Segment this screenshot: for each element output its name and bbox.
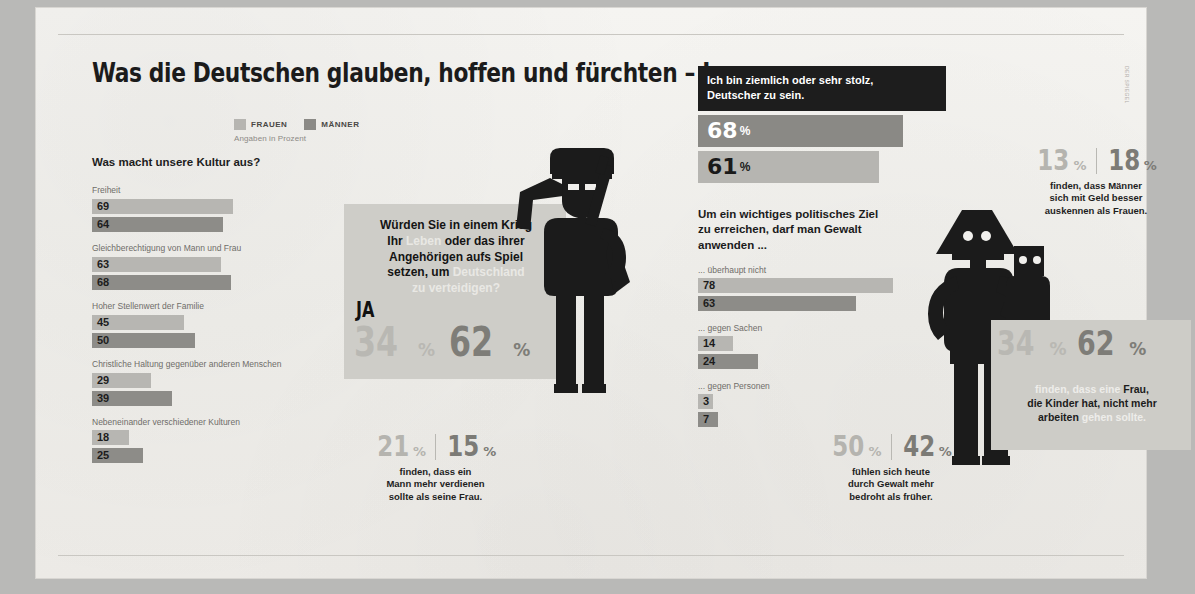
war-q-l4a: setzen, um bbox=[387, 265, 452, 279]
left-question: Was macht unsere Kultur aus? bbox=[92, 156, 297, 168]
bar-group: Christliche Haltung gegenüber anderen Me… bbox=[92, 359, 297, 406]
stat-threat-caption-line2: durch Gewalt mehr bbox=[791, 478, 991, 490]
bar-women: 29 bbox=[92, 373, 151, 388]
soldier-silhouette-icon bbox=[514, 134, 684, 399]
legend-row: FRAUEN MÄNNER bbox=[234, 119, 371, 130]
war-q-l2a: Ihr bbox=[387, 234, 406, 248]
stat-earn-caption-line3: sollte als seine Frau. bbox=[328, 491, 543, 503]
war-q-l2-ghost: Leben bbox=[406, 234, 441, 248]
stat-earn-caption: finden, dass ein Mann mehr verdienen sol… bbox=[328, 466, 543, 503]
stat-divider bbox=[1096, 148, 1097, 174]
bar-value-women: 3 bbox=[698, 396, 709, 407]
bar-value-women: 78 bbox=[698, 280, 715, 291]
legend: FRAUEN MÄNNER Angaben in Prozent bbox=[234, 119, 371, 143]
stat-earn-caption-line1: finden, dass ein bbox=[328, 466, 543, 478]
pride-unit-women: % bbox=[740, 160, 751, 174]
bar-value-men: 25 bbox=[92, 450, 109, 461]
bar-value-women: 14 bbox=[698, 338, 715, 349]
bar-value-women: 69 bbox=[92, 201, 109, 212]
bar-women: 69 bbox=[92, 199, 233, 214]
stat-money-women: 13 bbox=[1037, 146, 1069, 175]
bar-value-men: 64 bbox=[92, 219, 109, 230]
stat-divider bbox=[435, 434, 436, 460]
infographic-page: Was die Deutschen glauben, hoffen und fü… bbox=[36, 8, 1146, 578]
stat-money-unit-women: % bbox=[1073, 158, 1086, 173]
bar-group: Nebeneinander verschiedener Kulturen 18 … bbox=[92, 417, 297, 464]
bar-men: 7 bbox=[698, 412, 718, 427]
bar-value-men: 68 bbox=[92, 277, 109, 288]
bar-value-men: 39 bbox=[92, 393, 109, 404]
legend-label-women: FRAUEN bbox=[251, 120, 287, 129]
war-unit-women: % bbox=[418, 340, 435, 360]
bar-group: Freiheit 69 64 bbox=[92, 185, 297, 232]
bar-women: 18 bbox=[92, 430, 129, 445]
left-chart-column: Was macht unsere Kultur aus? Freiheit 69… bbox=[92, 156, 297, 474]
pride-heading-line1: Ich bin ziemlich oder sehr stolz, bbox=[707, 73, 937, 88]
bar-men: 24 bbox=[698, 354, 758, 369]
bar-value-men: 24 bbox=[698, 356, 715, 367]
bar-value-men: 63 bbox=[698, 298, 715, 309]
stat-earn-unit-women: % bbox=[413, 444, 426, 459]
war-value-men: 62 bbox=[449, 322, 493, 362]
credit-line: DER SPIEGEL bbox=[1124, 66, 1130, 104]
bar-women: 45 bbox=[92, 315, 184, 330]
stat-mother-caption-line3: arbeiten gehen sollte. bbox=[999, 410, 1185, 424]
legend-label-men: MÄNNER bbox=[321, 120, 359, 129]
infographic-content: Was die Deutschen glauben, hoffen und fü… bbox=[36, 8, 1146, 578]
stat-mother-unit-men: % bbox=[1129, 339, 1146, 359]
stat-mother-l3: arbeiten bbox=[1038, 411, 1082, 423]
bar-women: 14 bbox=[698, 336, 733, 351]
stat-earn-women: 21 bbox=[377, 432, 409, 461]
stat-earn-men: 15 bbox=[447, 432, 479, 461]
war-q-l2b: oder das ihrer bbox=[441, 234, 524, 248]
bar-group-label: Nebeneinander verschiedener Kulturen bbox=[92, 417, 297, 428]
legend-swatch-men-icon bbox=[304, 119, 316, 130]
bar-value-women: 29 bbox=[92, 375, 109, 386]
bar-group-label: Christliche Haltung gegenüber anderen Me… bbox=[92, 359, 297, 370]
bar-value-men: 50 bbox=[92, 335, 109, 346]
stat-mother-men: 62 bbox=[1077, 326, 1114, 360]
pride-heading-line2: Deutscher zu sein. bbox=[707, 88, 937, 103]
stat-money-men: 18 bbox=[1108, 146, 1140, 175]
stat-threat-women: 50 bbox=[832, 432, 864, 461]
stat-threat-unit-women: % bbox=[868, 444, 881, 459]
stat-threat-caption-line3: bedroht als früher. bbox=[791, 491, 991, 503]
stat-threat-caption: fühlen sich heute durch Gewalt mehr bedr… bbox=[791, 466, 991, 503]
stat-mother-values: 34 % 62 % bbox=[997, 326, 1187, 360]
stat-mother-caption: finden, dass eine Frau, die Kinder hat, … bbox=[999, 382, 1185, 425]
stat-money-caption-line1: finden, dass Männer bbox=[996, 180, 1195, 192]
bar-women: 3 bbox=[698, 394, 713, 409]
bar-men: 39 bbox=[92, 391, 172, 406]
bar-men: 64 bbox=[92, 217, 223, 232]
stat-money-caption-line2: sich mit Geld besser bbox=[996, 192, 1195, 204]
pride-value-men: 68 bbox=[698, 120, 738, 142]
pride-unit-men: % bbox=[740, 124, 751, 138]
legend-swatch-women-icon bbox=[234, 119, 246, 130]
legend-note: Angaben in Prozent bbox=[234, 134, 371, 143]
bar-group: Hoher Stellenwert der Familie 45 50 bbox=[92, 301, 297, 348]
bar-group-label: Hoher Stellenwert der Familie bbox=[92, 301, 297, 312]
bar-men: 50 bbox=[92, 333, 195, 348]
bar-men: 68 bbox=[92, 275, 231, 290]
stat-mother-l3-ghost: gehen sollte. bbox=[1082, 411, 1146, 423]
stat-mother-caption-line1: finden, dass eine Frau, bbox=[999, 382, 1185, 396]
mother-stat-panel: 34 % 62 % finden, dass eine Frau, die Ki… bbox=[991, 320, 1191, 450]
bar-value-men: 7 bbox=[698, 414, 709, 425]
stat-divider bbox=[891, 434, 892, 460]
pride-bar-women: 61 % bbox=[698, 151, 879, 183]
page-title: Was die Deutschen glauben, hoffen und fü… bbox=[92, 58, 710, 88]
stat-mother-women: 34 bbox=[997, 326, 1034, 360]
pride-value-women: 61 bbox=[698, 156, 738, 178]
bar-group-label: Freiheit bbox=[92, 185, 297, 196]
stat-earn-caption-line2: Mann mehr verdienen bbox=[328, 478, 543, 490]
bar-value-women: 18 bbox=[92, 432, 109, 443]
stat-money-unit-men: % bbox=[1144, 158, 1157, 173]
bar-men: 63 bbox=[698, 296, 856, 311]
pride-heading: Ich bin ziemlich oder sehr stolz, Deutsc… bbox=[698, 66, 946, 111]
pride-bar-men: 68 % bbox=[698, 115, 903, 147]
stat-earn-values: 21 % 15 % bbox=[328, 432, 543, 461]
stat-earn-unit-men: % bbox=[483, 444, 496, 459]
bar-men: 25 bbox=[92, 448, 143, 463]
stat-mother-unit-women: % bbox=[1050, 339, 1067, 359]
bar-women: 78 bbox=[698, 278, 893, 293]
